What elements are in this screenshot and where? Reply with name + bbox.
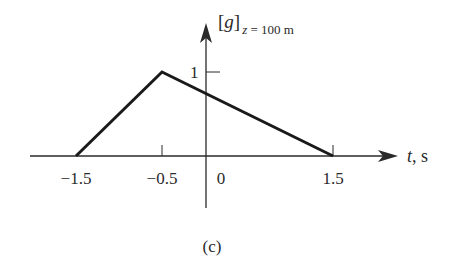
x-tick-label-0: 0 [217,169,226,188]
x-tick-label-minus-0.5: −0.5 [147,169,178,188]
pulse-line [76,72,333,156]
y-tick-label-1: 1 [190,63,199,82]
triangular-pulse-diagram: [g]z = 100 m 1 −1.5 −0.5 0 1.5 t, s (c) [0,0,454,275]
y-axis-label: [g]z = 100 m [218,11,294,37]
x-tick-label-1.5: 1.5 [322,169,343,188]
x-axis-label: t, s [407,146,428,166]
x-tick-label-minus-1.5: −1.5 [61,169,92,188]
panel-label: (c) [203,237,222,256]
